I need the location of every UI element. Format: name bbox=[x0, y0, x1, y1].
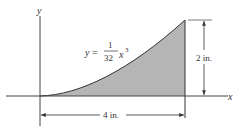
area-diagram: y x y = 1 32 x 3 2 in. 4 in. bbox=[0, 0, 236, 135]
equation-prefix: y = bbox=[84, 47, 98, 58]
equation-variable: x bbox=[118, 49, 124, 60]
y-axis-label: y bbox=[36, 5, 42, 16]
height-label: 2 in. bbox=[196, 53, 212, 63]
width-label: 4 in. bbox=[103, 110, 119, 120]
x-axis-label: x bbox=[227, 91, 233, 102]
equation-exponent: 3 bbox=[125, 46, 129, 54]
equation-numerator: 1 bbox=[108, 40, 113, 50]
equation-denominator: 32 bbox=[104, 53, 113, 63]
